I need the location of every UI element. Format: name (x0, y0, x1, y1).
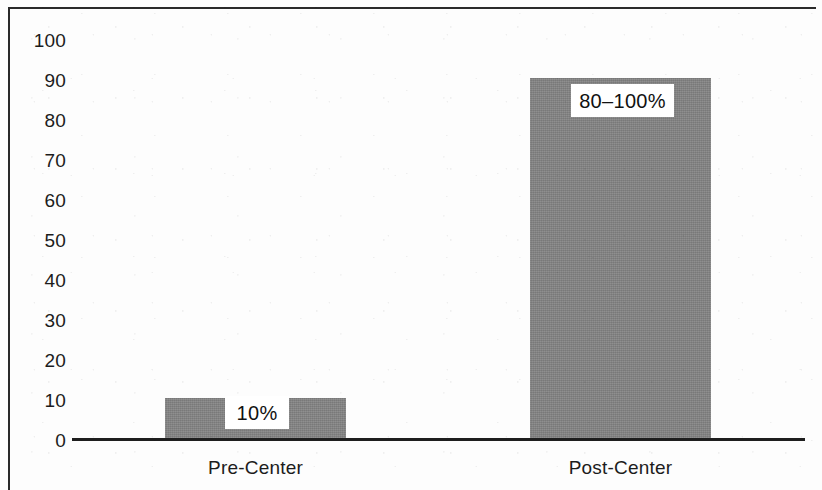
bar-value-label-post-center: 80–100% (571, 84, 674, 117)
y-axis-tick-60: 60 (18, 191, 66, 210)
x-axis-category-pre-center: Pre-Center (165, 458, 346, 477)
y-axis-tick-30: 30 (18, 311, 66, 330)
y-axis-tick-0: 0 (18, 431, 66, 450)
y-axis-tick-100: 100 (18, 31, 66, 50)
bar-chart-figure: 100 90 80 70 60 50 40 30 20 10 0 10% 80–… (0, 0, 822, 490)
figure-frame-left-rule (8, 7, 10, 490)
y-axis-tick-40: 40 (18, 271, 66, 290)
y-axis-tick-50: 50 (18, 231, 66, 250)
y-axis-tick-20: 20 (18, 351, 66, 370)
bar-value-label-pre-center: 10% (225, 396, 289, 429)
figure-frame-top-rule (8, 7, 816, 9)
x-axis-baseline (72, 438, 805, 441)
y-axis-tick-80: 80 (18, 111, 66, 130)
bar-post-center (530, 78, 711, 438)
x-axis-category-post-center: Post-Center (530, 458, 711, 477)
y-axis-tick-10: 10 (18, 391, 66, 410)
y-axis-tick-90: 90 (18, 71, 66, 90)
y-axis-tick-70: 70 (18, 151, 66, 170)
plot-area: 100 90 80 70 60 50 40 30 20 10 0 10% 80–… (0, 0, 822, 490)
